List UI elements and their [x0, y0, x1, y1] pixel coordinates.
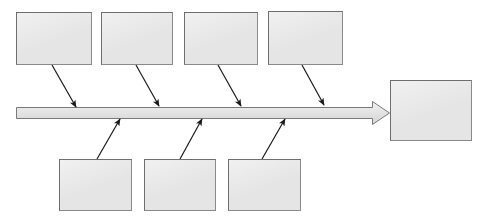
- connector-top-3: [218, 65, 241, 106]
- connector-arrows-bottom: [97, 119, 285, 159]
- cause-box-bottom-2[interactable]: [144, 159, 216, 211]
- connector-top-1: [52, 65, 76, 107]
- connector-bottom-1: [97, 119, 120, 159]
- cause-box-top-4[interactable]: [268, 11, 343, 65]
- cause-box-bottom-1[interactable]: [59, 159, 132, 211]
- fishbone-diagram: [0, 0, 484, 222]
- connector-top-2: [136, 65, 159, 106]
- connector-arrows-top: [52, 65, 324, 107]
- effect-box[interactable]: [390, 80, 472, 141]
- cause-box-top-1[interactable]: [16, 12, 92, 65]
- connector-bottom-2: [180, 119, 202, 159]
- cause-box-top-2[interactable]: [101, 12, 173, 65]
- connector-bottom-3: [262, 119, 285, 159]
- cause-box-top-3[interactable]: [184, 12, 258, 65]
- spine-arrow: [17, 102, 390, 125]
- cause-box-bottom-3[interactable]: [228, 159, 301, 211]
- connector-top-4: [302, 65, 324, 105]
